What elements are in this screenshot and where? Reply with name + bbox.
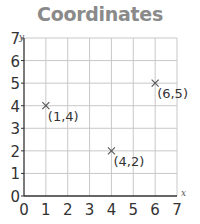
point-label: (4,2) xyxy=(113,154,144,169)
axes xyxy=(21,38,177,196)
y-tick-label: 2 xyxy=(10,143,20,161)
y-tick-label: 4 xyxy=(10,98,20,116)
data-points: (1,4)(4,2)(6,5) xyxy=(42,80,188,169)
point-label: (1,4) xyxy=(48,109,79,124)
y-tick-label: 0 xyxy=(10,188,20,206)
x-tick-label: 6 xyxy=(150,201,160,219)
x-tick-label: 5 xyxy=(129,201,139,219)
x-axis-label: x xyxy=(181,188,186,198)
x-tick-label: 4 xyxy=(107,201,117,219)
x-tick-label: 1 xyxy=(41,201,51,219)
scatter-chart: 0123456701234567 (1,4)(4,2)(6,5) x y xyxy=(0,0,200,224)
point-label: (6,5) xyxy=(157,86,188,101)
x-tick-label: 7 xyxy=(172,201,182,219)
y-tick-label: 5 xyxy=(10,75,20,93)
x-tick-label: 0 xyxy=(19,201,29,219)
y-tick-label: 6 xyxy=(10,53,20,71)
x-tick-label: 3 xyxy=(85,201,95,219)
x-tick-label: 2 xyxy=(63,201,73,219)
tick-labels: 0123456701234567 xyxy=(10,30,181,219)
y-axis-label: y xyxy=(18,32,25,42)
y-tick-label: 1 xyxy=(10,165,20,183)
y-tick-label: 3 xyxy=(10,120,20,138)
